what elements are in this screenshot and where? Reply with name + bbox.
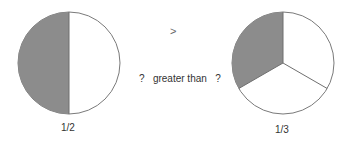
left-pie-shaded-sector: [18, 12, 69, 114]
greater-than-symbol: >: [170, 25, 176, 37]
right-pie-third: [232, 12, 334, 114]
left-pie-half: [18, 12, 120, 114]
right-pie-label: 1/3: [275, 124, 289, 135]
left-pie-label: 1/2: [61, 122, 75, 133]
greater-than-text: ? greater than ?: [139, 73, 221, 84]
